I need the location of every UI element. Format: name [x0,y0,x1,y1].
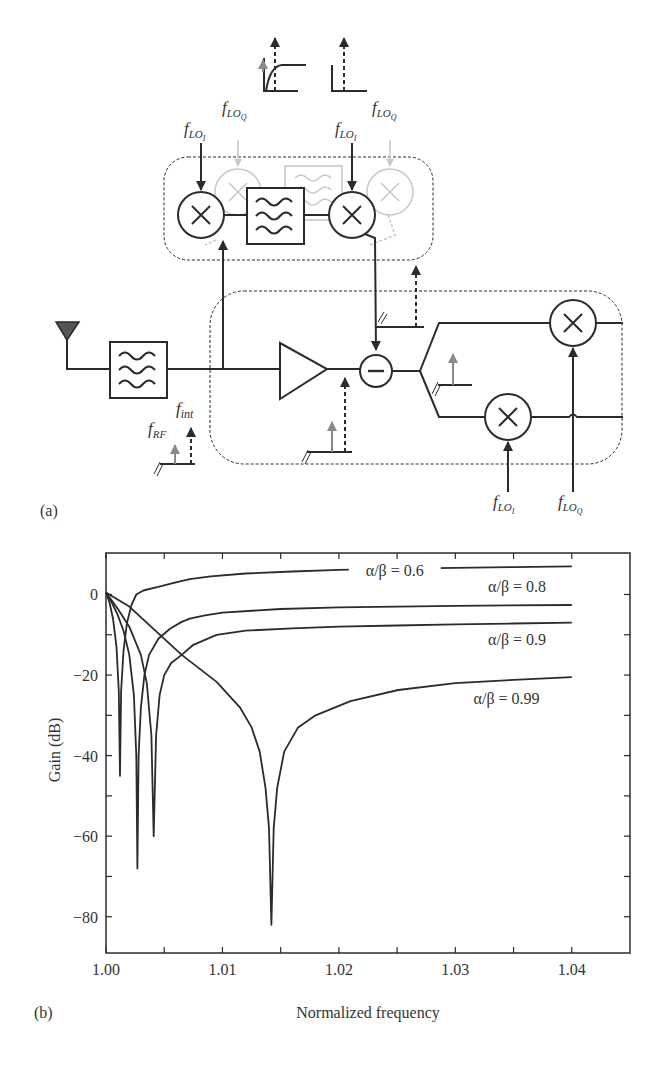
label-f-lo-q-bottom: fLOQ [558,492,583,516]
panel-a-label: (a) [40,502,58,520]
ghost-q-path [205,140,413,245]
axis-ticks [106,553,630,953]
x-tick-label: 1.03 [441,961,469,978]
label-f-lo-q-ghost-1: fLOQ [222,98,247,122]
label-f-rf: fRF [148,419,166,440]
figure-canvas: fLOQ fLOI fLOI fLOQ fint fRF fLOI fLOQ (… [0,0,663,1065]
y-tick-label: −60 [73,828,98,845]
series-annotation: α/β = 0.8 [488,578,546,596]
spectrum-sketch-top-left [263,38,306,91]
preselect-filter [110,342,167,398]
feedforward-filter [247,188,304,244]
x-tick-label: 1.00 [92,961,120,978]
spectrum-sketch-after-lna [302,378,352,464]
panel-a-labels: fLOQ fLOI fLOI fLOQ fint fRF fLOI fLOQ (… [40,98,583,520]
plot-frame [106,553,630,953]
gain-curve-series-2 [106,593,572,837]
label-f-lo-i-1: fLOI [184,119,206,143]
y-tick-label: −20 [73,667,98,684]
curve-annotations: α/β = 0.6α/β = 0.8α/β = 0.9α/β = 0.99 [349,562,546,708]
y-axis-label: Gain (dB) [46,718,64,782]
y-tick-label: 0 [90,586,98,603]
panel-b-chart: 1.001.011.021.031.040−20−40−60−80 α/β = … [34,553,630,1022]
x-axis-label: Normalized frequency [296,1004,439,1022]
series-annotation: α/β = 0.9 [488,631,546,649]
label-f-int: fint [176,399,194,421]
panel-b-label: (b) [34,1004,53,1022]
label-f-lo-i-bottom: fLOI [493,492,515,516]
lna-amplifier-icon [280,343,327,399]
x-tick-label: 1.02 [325,961,353,978]
y-tick-label: −40 [73,748,98,765]
series-annotation: α/β = 0.6 [366,562,424,580]
x-tick-label: 1.01 [208,961,236,978]
label-f-lo-q-ghost-2: fLOQ [372,98,397,122]
gain-curve-series-0 [106,566,572,776]
spectrum-sketch-after-subtraction [432,354,472,396]
antenna-icon [56,322,79,340]
spectrum-sketch-top-right [332,38,367,91]
label-f-lo-i-2: fLOI [335,119,357,143]
series-annotation: α/β = 0.99 [474,690,540,708]
gain-curves [106,566,572,925]
x-tick-label: 1.04 [558,961,586,978]
y-tick-label: −80 [73,909,98,926]
panel-a-diagram [56,38,623,492]
spectrum-sketch-feedforward-out [376,266,424,327]
